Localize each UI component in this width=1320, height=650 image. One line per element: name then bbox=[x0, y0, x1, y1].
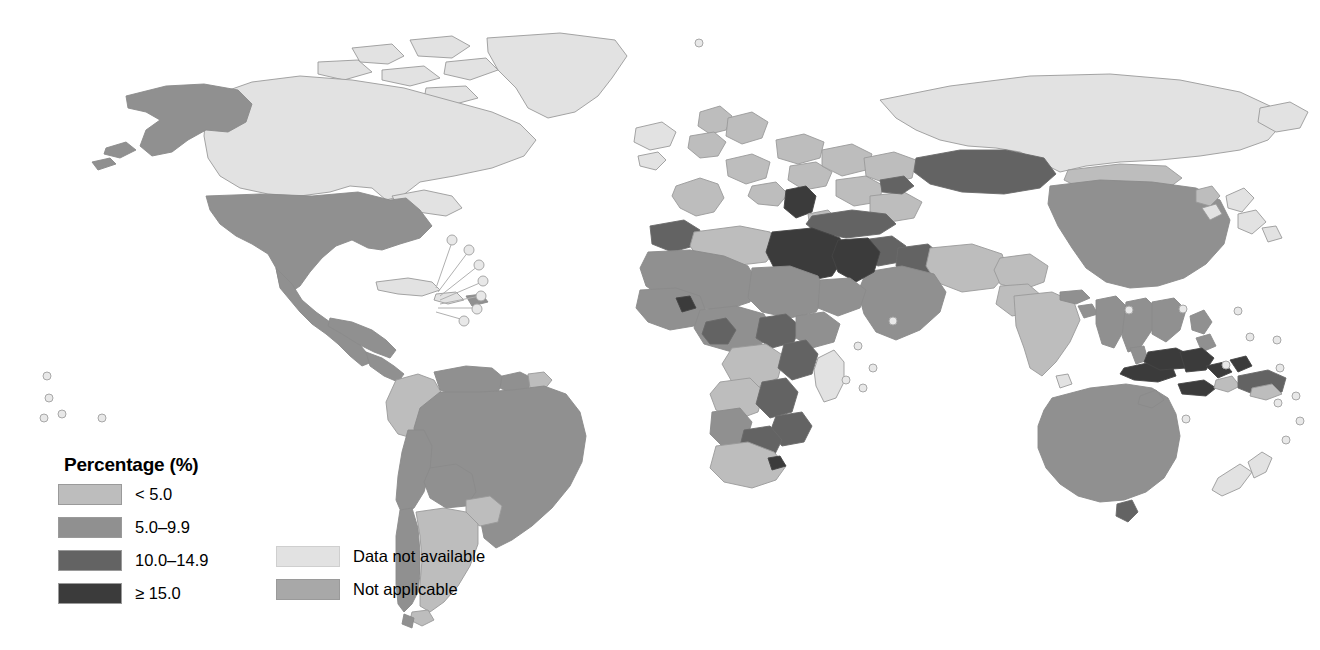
world-map-figure: .c0{fill:#e2e2e2;stroke:#9a9a9a;stroke-w… bbox=[0, 0, 1320, 650]
legend-title: Percentage (%) bbox=[64, 455, 488, 474]
legend-item-10-to-14: 10.0–14.9 bbox=[58, 547, 208, 573]
legend-item-5-to-9: 5.0–9.9 bbox=[58, 514, 208, 540]
map-region-europe bbox=[634, 106, 922, 230]
legend-label-10-to-14: 10.0–14.9 bbox=[135, 552, 208, 569]
legend-item-not-applicable: Not applicable bbox=[276, 576, 485, 602]
map-region-russia-asia bbox=[806, 74, 1308, 388]
legend-swatch-10-to-14 bbox=[58, 550, 122, 571]
legend-label-gte-15: ≥ 15.0 bbox=[135, 585, 181, 602]
legend-label-data-not-available: Data not available bbox=[353, 548, 485, 565]
legend-swatch-data-not-available bbox=[276, 546, 340, 567]
legend-swatch-not-applicable bbox=[276, 579, 340, 600]
map-region-africa bbox=[636, 220, 880, 488]
legend-label-5-to-9: 5.0–9.9 bbox=[135, 519, 190, 536]
map-region-oceania bbox=[1038, 348, 1286, 522]
legend-swatch-lt-5 bbox=[58, 484, 122, 505]
map-region-north-america bbox=[92, 33, 627, 382]
legend-extra-column: Data not available Not applicable bbox=[276, 543, 485, 609]
legend-swatch-5-to-9 bbox=[58, 517, 122, 538]
map-legend: Percentage (%) < 5.0 5.0–9.9 10.0–14.9 ≥… bbox=[58, 455, 488, 620]
legend-label-not-applicable: Not applicable bbox=[353, 581, 458, 598]
legend-scale-column: < 5.0 5.0–9.9 10.0–14.9 ≥ 15.0 bbox=[58, 481, 208, 613]
legend-swatch-gte-15 bbox=[58, 583, 122, 604]
legend-item-lt-5: < 5.0 bbox=[58, 481, 208, 507]
legend-item-gte-15: ≥ 15.0 bbox=[58, 580, 208, 606]
legend-label-lt-5: < 5.0 bbox=[135, 486, 172, 503]
caribbean-island-markers bbox=[447, 235, 488, 326]
legend-item-data-not-available: Data not available bbox=[276, 543, 485, 569]
